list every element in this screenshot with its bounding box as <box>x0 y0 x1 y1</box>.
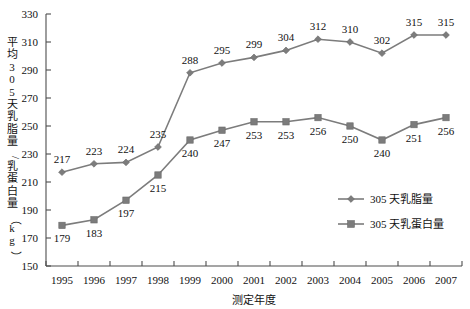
y-axis-tick-label: 250 <box>22 120 39 132</box>
data-point-label: 215 <box>150 182 167 194</box>
x-axis-tick-label: 2000 <box>211 274 234 286</box>
data-point-marker-square <box>187 137 193 143</box>
data-point-label: 250 <box>342 133 359 145</box>
data-point-marker-square <box>155 172 161 178</box>
y-axis-title-char: k <box>9 222 15 234</box>
data-point-marker-square <box>315 114 321 120</box>
data-point-label: 217 <box>54 153 71 165</box>
x-axis-tick-label: 1996 <box>83 274 106 286</box>
y-axis-title-char: 脂 <box>7 122 18 135</box>
data-point-label: 256 <box>438 125 455 137</box>
y-axis-title-char: 乳 <box>7 110 18 122</box>
data-point-label: 251 <box>406 132 423 144</box>
data-point-label: 253 <box>246 129 263 141</box>
x-axis-tick-label: 1995 <box>51 274 74 286</box>
data-point-marker-square <box>379 137 385 143</box>
data-point-label: 183 <box>86 227 103 239</box>
x-axis-tick-label: 1999 <box>179 274 202 286</box>
data-point-label: 247 <box>214 137 231 149</box>
y-axis-tick-label: 330 <box>22 8 39 20</box>
y-axis-title-char: 量 <box>7 135 18 147</box>
data-point-marker-square <box>91 217 97 223</box>
y-axis-title-char: 0 <box>9 73 15 85</box>
y-axis-title-char: ） <box>10 251 22 262</box>
y-axis-tick-label: 190 <box>22 204 39 216</box>
x-axis-tick-label: 2006 <box>403 274 426 286</box>
y-axis-title-char: 蛋 <box>7 172 18 184</box>
data-point-label: 315 <box>406 16 423 28</box>
data-point-label: 224 <box>118 143 135 155</box>
data-point-label: 240 <box>374 147 391 159</box>
chart-background <box>0 0 470 309</box>
y-axis-tick-label: 230 <box>22 148 39 160</box>
y-axis-title-char: 3 <box>9 61 15 73</box>
y-axis-title-char: 天 <box>7 98 18 110</box>
data-point-label: 299 <box>246 38 263 50</box>
data-point-label: 310 <box>342 23 359 35</box>
x-axis-tick-label: 2003 <box>307 274 330 286</box>
data-point-marker-square <box>347 123 353 129</box>
x-axis-tick-label: 2001 <box>243 274 265 286</box>
x-axis-tick-label: 1998 <box>147 274 170 286</box>
y-axis-title-char: 白 <box>7 184 18 197</box>
y-axis-tick-label: 150 <box>22 260 39 272</box>
line-chart: 平均305天乳脂量/乳蛋白量（kg） 330310290270250230210… <box>0 0 470 309</box>
y-axis-tick-label: 210 <box>22 176 39 188</box>
data-point-label: 235 <box>150 128 167 140</box>
legend-marker-square <box>348 221 355 228</box>
data-point-label: 295 <box>214 44 231 56</box>
y-axis-tick-label: 170 <box>22 232 39 244</box>
y-axis-title-char: 均 <box>7 48 18 60</box>
data-point-marker-square <box>251 119 257 125</box>
y-axis-title-char: 平 <box>7 36 18 48</box>
data-point-marker-square <box>123 197 129 203</box>
legend-item-label[interactable]: 305 天乳脂量 <box>370 192 433 205</box>
data-point-label: 302 <box>374 34 391 46</box>
chart-canvas: 平均305天乳脂量/乳蛋白量（kg） 330310290270250230210… <box>0 0 470 309</box>
y-axis-tick-label: 270 <box>22 92 39 104</box>
data-point-marker-square <box>443 114 449 120</box>
x-axis-tick-label: 2004 <box>339 274 362 286</box>
data-point-label: 240 <box>182 147 199 159</box>
data-point-label: 315 <box>438 16 455 28</box>
y-axis-tick-label: 310 <box>22 36 39 48</box>
x-axis-tick-label: 2002 <box>275 274 297 286</box>
data-point-marker-square <box>59 222 65 228</box>
data-point-marker-square <box>219 127 225 133</box>
data-point-label: 197 <box>118 207 135 219</box>
data-point-label: 288 <box>182 54 199 66</box>
y-axis-title-char: 5 <box>9 86 15 98</box>
x-axis-title: 测定年度 <box>232 293 276 306</box>
data-point-label: 253 <box>278 129 295 141</box>
data-point-label: 312 <box>310 20 327 32</box>
data-point-label: 179 <box>54 232 71 244</box>
y-axis-tick-label: 290 <box>22 64 39 76</box>
data-point-marker-square <box>411 121 417 127</box>
data-point-label: 223 <box>86 145 103 157</box>
data-point-label: 304 <box>278 31 295 43</box>
x-axis-tick-label: 1997 <box>115 274 138 286</box>
data-point-label: 256 <box>310 125 327 137</box>
x-axis-tick-label: 2007 <box>435 274 458 286</box>
y-axis-title-char: g <box>9 234 15 246</box>
y-axis-title-char: 乳 <box>7 160 18 172</box>
y-axis-title-char: 量 <box>7 197 18 209</box>
data-point-marker-square <box>283 119 289 125</box>
legend-item-label[interactable]: 305 天乳蛋白量 <box>370 217 444 230</box>
x-axis-tick-label: 2005 <box>371 274 394 286</box>
